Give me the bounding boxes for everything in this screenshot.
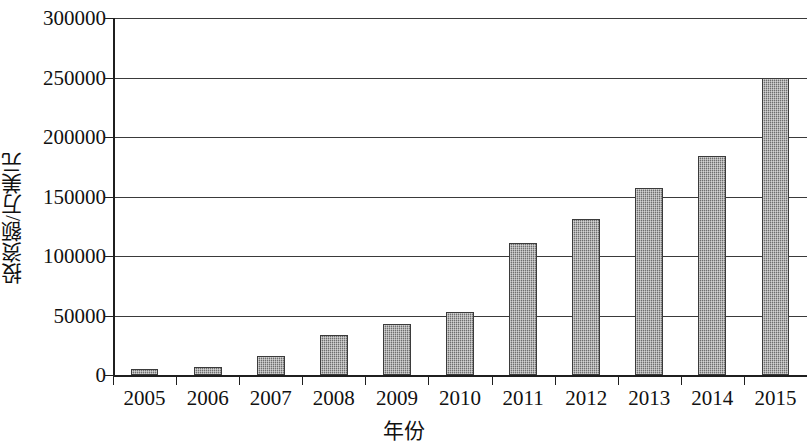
bar-2007 xyxy=(257,356,285,375)
x-axis-tick xyxy=(744,375,745,385)
x-axis-tick-label: 2012 xyxy=(565,388,607,409)
x-axis-tick xyxy=(681,375,682,385)
x-axis-tick xyxy=(428,375,429,385)
x-axis-tick-label: 2005 xyxy=(124,388,166,409)
x-axis-tick xyxy=(302,375,303,385)
y-axis-tick-labels: 050000100000150000200000250000300000 xyxy=(20,0,106,447)
bar-2013 xyxy=(635,188,663,375)
x-axis-tick-label: 2011 xyxy=(502,388,543,409)
bar-2009 xyxy=(383,324,411,375)
bar-chart: 投资额/万美元 05000010000015000020000025000030… xyxy=(0,0,807,447)
bar-2015 xyxy=(762,78,790,376)
y-axis-tick xyxy=(104,375,113,376)
y-axis-tick xyxy=(104,256,113,257)
bar-2006 xyxy=(194,367,222,375)
x-axis-tick xyxy=(618,375,619,385)
x-axis-tick-label: 2010 xyxy=(439,388,481,409)
x-axis-tick-labels: 2005200620072008200920102011201220132014… xyxy=(113,388,807,416)
y-axis-tick xyxy=(104,137,113,138)
y-axis-tick-label: 200000 xyxy=(20,127,106,148)
y-axis-tick xyxy=(104,197,113,198)
bar-2010 xyxy=(446,312,474,375)
bar-series xyxy=(113,18,807,375)
y-axis-tick-label: 50000 xyxy=(20,305,106,326)
x-axis-tick-label: 2013 xyxy=(628,388,670,409)
bar-2008 xyxy=(320,335,348,375)
x-axis-tick xyxy=(365,375,366,385)
x-axis-tick xyxy=(176,375,177,385)
y-axis-tick xyxy=(104,316,113,317)
y-axis-tick-label: 100000 xyxy=(20,246,106,267)
x-axis-tick-label: 2009 xyxy=(376,388,418,409)
x-axis-tick-label: 2006 xyxy=(187,388,229,409)
x-axis-tick-label: 2007 xyxy=(250,388,292,409)
y-axis-tick xyxy=(104,78,113,79)
y-axis-tick-label: 250000 xyxy=(20,67,106,88)
x-axis-tick-label: 2015 xyxy=(754,388,796,409)
bar-2005 xyxy=(131,369,159,375)
x-axis-tick xyxy=(555,375,556,385)
gridline xyxy=(113,375,807,377)
y-axis-tick xyxy=(104,18,113,19)
x-axis-tick xyxy=(113,375,114,385)
x-axis-tick xyxy=(492,375,493,385)
x-axis-tick-label: 2014 xyxy=(691,388,733,409)
y-axis-tick-label: 300000 xyxy=(20,8,106,29)
bar-2011 xyxy=(509,243,537,375)
x-axis-tick xyxy=(239,375,240,385)
bar-2014 xyxy=(698,156,726,375)
x-axis-title: 年份 xyxy=(0,421,807,442)
y-axis-tick-label: 150000 xyxy=(20,186,106,207)
y-axis-tick-label: 0 xyxy=(20,365,106,386)
x-axis-tick-label: 2008 xyxy=(313,388,355,409)
bar-2012 xyxy=(572,219,600,375)
